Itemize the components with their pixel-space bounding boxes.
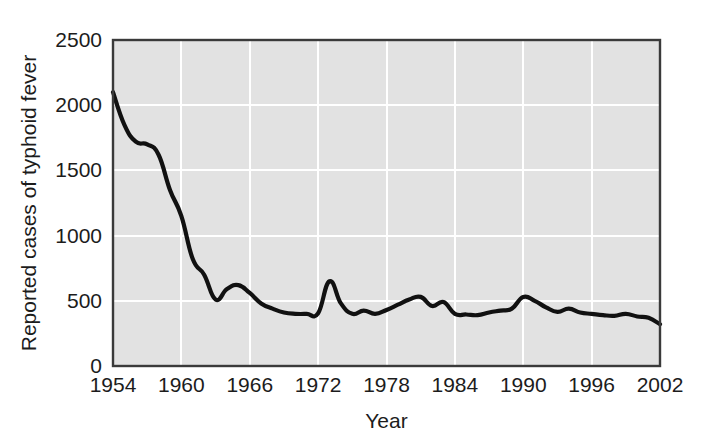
y-tick-label: 2500 [55,28,102,51]
chart-canvas: 05001000150020002500 1954196019661972197… [0,0,718,441]
x-tick-label: 1966 [226,373,273,396]
y-tick-label: 1500 [55,158,102,181]
x-tick-label: 1990 [500,373,547,396]
y-axis-title: Reported cases of typhoid fever [17,55,40,352]
x-axis-tick-labels: 195419601966197219781984199019962002 [90,373,684,396]
x-axis-title: Year [365,409,407,432]
x-tick-label: 1978 [363,373,410,396]
y-tick-label: 1000 [55,224,102,247]
x-tick-label: 1996 [568,373,615,396]
x-tick-label: 1960 [158,373,205,396]
y-tick-label: 500 [67,289,102,312]
y-tick-label: 2000 [55,93,102,116]
x-tick-label: 2002 [637,373,684,396]
x-tick-label: 1972 [295,373,342,396]
x-tick-label: 1954 [90,373,137,396]
typhoid-fever-line-chart: 05001000150020002500 1954196019661972197… [0,0,718,441]
x-tick-label: 1984 [432,373,479,396]
y-axis-tick-labels: 05001000150020002500 [55,28,102,377]
